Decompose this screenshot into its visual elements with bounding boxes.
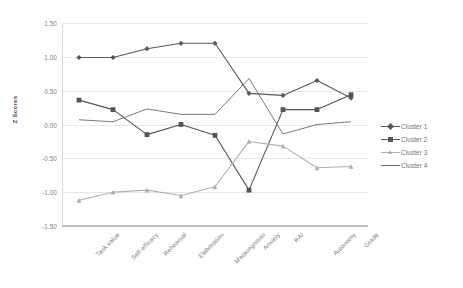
legend-label: Cluster 2	[401, 136, 427, 143]
x-tick-label: Self-efficacy	[129, 231, 159, 261]
x-tick-label: Elaboration	[197, 231, 225, 259]
series-1	[76, 41, 353, 101]
data-point	[144, 46, 149, 51]
legend-swatch-icon	[381, 122, 400, 131]
series-4	[79, 78, 351, 133]
legend-marker-square-icon	[388, 137, 393, 142]
legend-swatch-icon	[381, 161, 400, 170]
chart-container: Z Scores 1.501.000.500.00-0.50-1.00-1.50…	[0, 0, 463, 288]
x-tick-label: Rehearsal	[162, 231, 188, 257]
chart-legend: Cluster 1Cluster 2Cluster 3Cluster 4	[381, 120, 461, 172]
legend-label: Cluster 1	[401, 123, 427, 130]
x-tick-label: Metacognition	[233, 231, 267, 265]
y-axis-title: Z Scores	[11, 80, 18, 140]
y-tick-label: -1.00	[42, 189, 57, 196]
x-tick-label: Autonomy	[332, 231, 358, 257]
legend-item-4[interactable]: Cluster 4	[381, 159, 461, 172]
data-point	[281, 107, 286, 112]
data-point	[314, 78, 319, 83]
data-point	[76, 55, 81, 60]
legend-swatch-icon	[381, 148, 400, 157]
legend-line	[381, 165, 400, 166]
data-point	[247, 188, 252, 193]
y-tick-label: 1.00	[44, 53, 57, 60]
data-point	[111, 107, 116, 112]
series-line	[79, 43, 351, 98]
data-point	[280, 93, 285, 98]
x-tick-label: Task value	[94, 231, 121, 258]
x-tick-label: Grade	[362, 231, 380, 249]
y-tick-label: -1.50	[42, 223, 57, 230]
y-tick-label: 0.00	[44, 121, 57, 128]
plot-area: 1.501.000.500.00-0.50-1.00-1.50	[62, 23, 368, 226]
data-point	[178, 41, 183, 46]
legend-item-1[interactable]: Cluster 1	[381, 120, 461, 133]
data-point	[110, 55, 115, 60]
legend-marker-triangle-icon	[388, 150, 392, 154]
legend-label: Cluster 3	[401, 149, 427, 156]
series-line	[79, 141, 351, 200]
series-line	[79, 78, 351, 133]
y-tick-label: -0.50	[42, 155, 57, 162]
legend-item-3[interactable]: Cluster 3	[381, 146, 461, 159]
data-point	[315, 107, 320, 112]
legend-swatch-icon	[381, 135, 400, 144]
series-line	[79, 95, 351, 190]
data-point	[179, 122, 184, 127]
series-3	[77, 139, 354, 203]
x-tick-label: RAI	[292, 231, 305, 244]
legend-item-2[interactable]: Cluster 2	[381, 133, 461, 146]
legend-marker-diamond-icon	[387, 122, 394, 129]
legend-label: Cluster 4	[401, 162, 427, 169]
data-point	[349, 92, 354, 97]
data-point	[213, 133, 218, 138]
y-tick-label: 1.50	[44, 20, 57, 27]
series-layer	[62, 23, 368, 226]
data-point	[145, 132, 150, 137]
y-tick-label: 0.50	[44, 87, 57, 94]
series-2	[77, 92, 354, 192]
gridline: -1.50	[62, 226, 368, 227]
data-point	[77, 98, 82, 103]
